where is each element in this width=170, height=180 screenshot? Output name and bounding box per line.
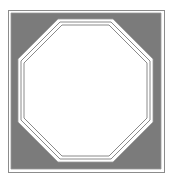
diagram-canvas [0,0,170,180]
octagon-outline-inner [24,25,147,156]
octagon-in-square-diagram: Octagon inscribed in a square frame [0,0,170,180]
